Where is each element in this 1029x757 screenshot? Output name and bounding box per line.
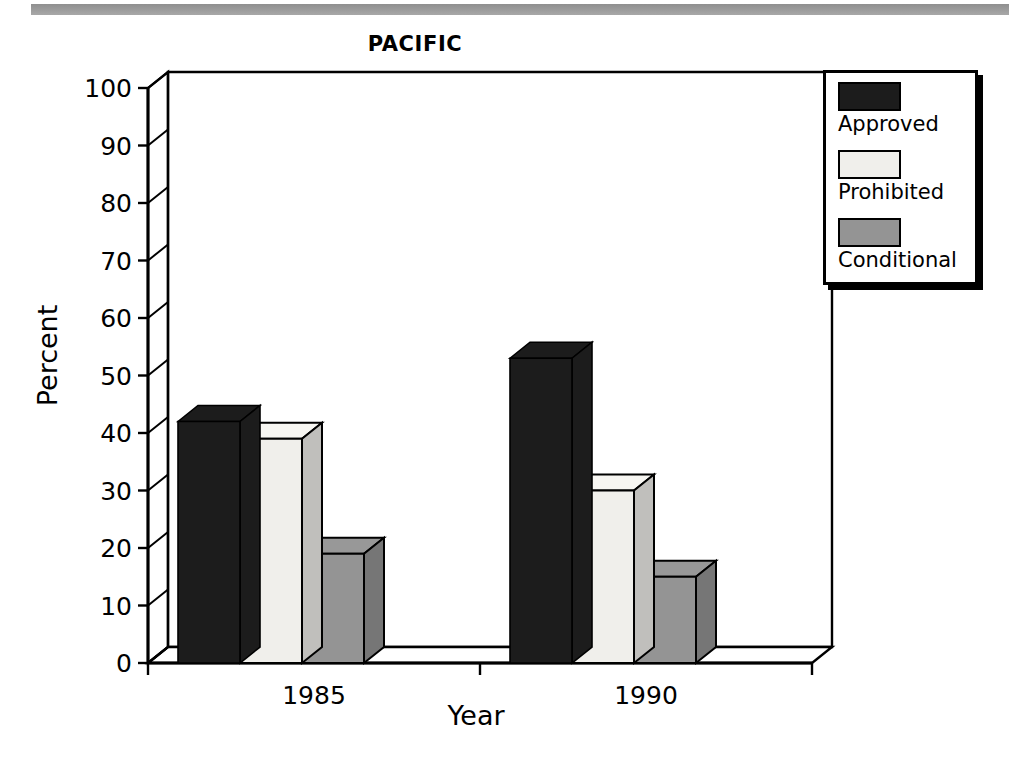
- chart-legend: Approved Prohibited Conditional: [823, 70, 978, 285]
- legend-item-2: Conditional: [838, 218, 970, 271]
- legend-label-approved: Approved: [838, 113, 970, 135]
- legend-swatch-prohibited: [838, 150, 901, 179]
- legend-swatch-conditional: [838, 218, 901, 247]
- chart-figure: PACIFIC Percent Year 1009080706050403020…: [0, 0, 1029, 757]
- bar-approved-1985: [178, 406, 260, 664]
- legend-item-1: Prohibited: [838, 150, 970, 203]
- legend-label-conditional: Conditional: [838, 249, 970, 271]
- legend-label-prohibited: Prohibited: [838, 181, 970, 203]
- bar-approved-1990: [510, 342, 592, 663]
- legend-swatch-approved: [838, 82, 901, 111]
- legend-item-0: Approved: [838, 82, 970, 135]
